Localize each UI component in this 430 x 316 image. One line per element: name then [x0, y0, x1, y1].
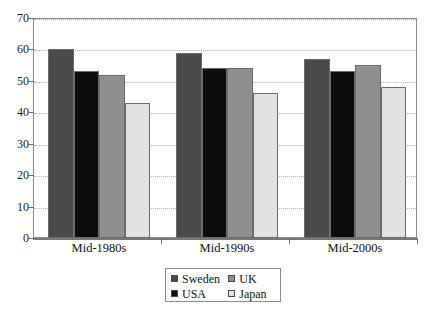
legend-entry-sweden: Sweden	[171, 273, 228, 285]
x-axis-tick-mark	[417, 238, 418, 244]
legend-swatch-usa	[171, 290, 178, 297]
bar-japan-mid-1990s	[253, 93, 279, 238]
bar-usa-mid-2000s	[330, 71, 356, 238]
legend-swatch-japan	[228, 290, 235, 297]
legend-swatch-sweden	[171, 275, 178, 282]
x-axis-category-label: Mid-1980s	[39, 242, 159, 256]
x-axis-category-label: Mid-1990s	[167, 242, 287, 256]
legend-row-2: USA Japan	[171, 286, 276, 301]
y-axis-tick-mark	[28, 238, 34, 239]
x-axis-category-label: Mid-2000s	[295, 242, 415, 256]
legend-entry-usa: USA	[171, 288, 228, 300]
y-axis-tick-label: 60	[3, 43, 29, 55]
y-axis-tick-label: 70	[3, 12, 29, 24]
y-axis-tick-label: 40	[3, 106, 29, 118]
legend-entry-japan: Japan	[228, 288, 276, 300]
legend-label-usa: USA	[182, 288, 206, 300]
y-axis-tick-label: 50	[3, 75, 29, 87]
bar-chart: 010203040506070 Mid-1980sMid-1990sMid-20…	[0, 0, 430, 316]
y-axis-tick-labels: 010203040506070	[0, 0, 29, 316]
chart-legend: Sweden UK USA Japan	[165, 268, 281, 302]
legend-swatch-uk	[228, 275, 235, 282]
bar-sweden-mid-2000s	[304, 59, 330, 238]
x-axis-tick-mark	[289, 238, 290, 244]
bar-usa-mid-1980s	[74, 71, 100, 238]
legend-row-1: Sweden UK	[171, 271, 276, 286]
legend-label-japan: Japan	[239, 288, 266, 300]
y-axis-tick-label: 30	[3, 138, 29, 150]
bar-usa-mid-1990s	[202, 68, 228, 238]
bar-uk-mid-1980s	[99, 75, 125, 238]
bar-uk-mid-2000s	[355, 65, 381, 238]
bar-sweden-mid-1980s	[48, 49, 74, 238]
legend-label-sweden: Sweden	[182, 273, 220, 285]
bar-japan-mid-2000s	[381, 87, 407, 238]
bar-uk-mid-1990s	[227, 68, 253, 238]
x-axis-baseline	[33, 238, 418, 240]
y-axis-tick-label: 20	[3, 169, 29, 181]
y-axis-tick-label: 0	[3, 232, 29, 244]
bar-series-layer	[33, 18, 417, 238]
legend-label-uk: UK	[239, 273, 256, 285]
bar-sweden-mid-1990s	[176, 53, 202, 238]
y-axis-tick-label: 10	[3, 201, 29, 213]
x-axis-tick-mark	[161, 238, 162, 244]
legend-entry-uk: UK	[228, 273, 276, 285]
bar-japan-mid-1980s	[125, 103, 151, 238]
